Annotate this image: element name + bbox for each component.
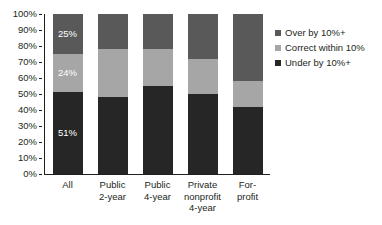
bar-segment bbox=[143, 14, 173, 49]
legend-color-swatch bbox=[275, 60, 281, 66]
legend-color-swatch bbox=[275, 45, 281, 51]
bar-segment bbox=[188, 94, 218, 174]
x-axis-line bbox=[44, 174, 270, 175]
y-axis-tick-mark bbox=[39, 62, 42, 63]
y-axis-tick-label: 70% bbox=[18, 57, 37, 67]
bar-stack bbox=[98, 14, 128, 174]
y-axis-tick-mark bbox=[39, 14, 42, 15]
bar-group bbox=[143, 14, 173, 174]
bar-segment: 25% bbox=[53, 14, 83, 54]
y-axis-tick-label: 90% bbox=[18, 25, 37, 35]
legend-item: Correct within 10% bbox=[275, 42, 382, 54]
bar-segment bbox=[98, 97, 128, 174]
x-axis-category-label: Public 4-year bbox=[135, 179, 180, 202]
y-axis-tick-mark bbox=[39, 174, 42, 175]
stacked-bar-chart: 100%90%80%70%60%50%40%30%20%10%0% 51%24%… bbox=[0, 0, 382, 225]
bar-stack bbox=[143, 14, 173, 174]
y-axis-tick-label: 20% bbox=[18, 137, 37, 147]
legend-item: Over by 10%+ bbox=[275, 27, 382, 39]
x-axis-category-label: Public 2-year bbox=[90, 179, 135, 202]
y-axis: 100%90%80%70%60%50%40%30%20%10%0% bbox=[0, 14, 42, 174]
y-axis-tick-label: 40% bbox=[18, 105, 37, 115]
chart-legend: Over by 10%+Correct within 10%Under by 1… bbox=[275, 27, 382, 72]
legend-item: Under by 10%+ bbox=[275, 57, 382, 69]
y-axis-tick-mark bbox=[39, 94, 42, 95]
legend-label: Over by 10%+ bbox=[285, 27, 345, 39]
bar-group bbox=[233, 14, 263, 174]
bar-segment bbox=[143, 86, 173, 174]
bar-segment bbox=[188, 59, 218, 94]
plot-area: 51%24%25% bbox=[45, 14, 270, 174]
y-axis-tick-label: 30% bbox=[18, 121, 37, 131]
y-axis-tick-label: 100% bbox=[13, 9, 37, 19]
bar-segment bbox=[98, 49, 128, 97]
bar-group bbox=[98, 14, 128, 174]
x-axis-category-label: Private nonprofit 4-year bbox=[180, 179, 225, 214]
y-axis-tick-mark bbox=[39, 126, 42, 127]
bar-value-label: 51% bbox=[58, 128, 77, 138]
bar-segment bbox=[233, 107, 263, 174]
y-axis-tick-label: 10% bbox=[18, 153, 37, 163]
x-axis-category-label: All bbox=[45, 179, 90, 191]
bar-segment bbox=[233, 14, 263, 81]
y-axis-tick-label: 60% bbox=[18, 73, 37, 83]
bar-group bbox=[188, 14, 218, 174]
y-axis-tick-mark bbox=[39, 30, 42, 31]
bar-segment bbox=[233, 81, 263, 107]
bar-stack: 51%24%25% bbox=[53, 14, 83, 174]
y-axis-tick-label: 80% bbox=[18, 41, 37, 51]
y-axis-tick-label: 50% bbox=[18, 89, 37, 99]
y-axis-tick-label: 0% bbox=[23, 169, 37, 179]
bar-group: 51%24%25% bbox=[53, 14, 83, 174]
bar-segment: 24% bbox=[53, 54, 83, 92]
bar-segment: 51% bbox=[53, 92, 83, 174]
y-axis-tick-mark bbox=[39, 142, 42, 143]
y-axis-tick-mark bbox=[39, 158, 42, 159]
bar-stack bbox=[233, 14, 263, 174]
y-axis-tick-mark bbox=[39, 46, 42, 47]
y-axis-tick-mark bbox=[39, 110, 42, 111]
legend-label: Correct within 10% bbox=[285, 42, 365, 54]
bar-segment bbox=[143, 49, 173, 86]
legend-label: Under by 10%+ bbox=[285, 57, 351, 69]
y-axis-tick-mark bbox=[39, 78, 42, 79]
bar-segment bbox=[188, 14, 218, 59]
bar-stack bbox=[188, 14, 218, 174]
legend-color-swatch bbox=[275, 30, 281, 36]
x-axis-category-label: For- profit bbox=[225, 179, 270, 202]
bar-value-label: 24% bbox=[58, 68, 77, 78]
bar-value-label: 25% bbox=[58, 29, 77, 39]
bar-segment bbox=[98, 14, 128, 49]
